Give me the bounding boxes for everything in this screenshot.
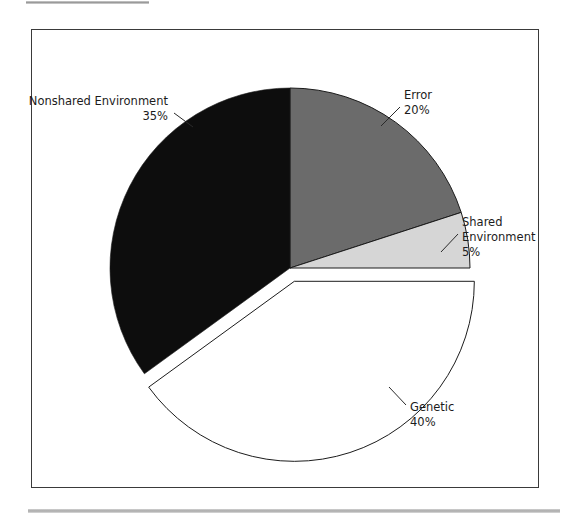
slice-label-error: Error20% bbox=[404, 88, 432, 117]
slice-label-line: 20% bbox=[404, 103, 430, 117]
slice-label-shared-environment: SharedEnvironment5% bbox=[462, 215, 536, 259]
bottom-rule-decoration bbox=[28, 509, 560, 513]
figure-page: Error20%SharedEnvironment5%Genetic40%Non… bbox=[0, 0, 567, 516]
slice-label-line: 40% bbox=[410, 415, 436, 429]
slice-label-line: Environment bbox=[462, 230, 536, 244]
slice-label-line: Shared bbox=[462, 215, 503, 229]
slice-label-nonshared-environment: Nonshared Environment35% bbox=[29, 94, 169, 123]
slice-label-line: Nonshared Environment bbox=[29, 94, 169, 108]
slice-label-line: 5% bbox=[462, 245, 480, 259]
pie-chart: Error20%SharedEnvironment5%Genetic40%Non… bbox=[0, 0, 567, 516]
slice-label-line: Error bbox=[404, 88, 432, 102]
slice-label-line: Genetic bbox=[410, 400, 454, 414]
slice-label-genetic: Genetic40% bbox=[410, 400, 454, 429]
slice-label-line: 35% bbox=[142, 109, 168, 123]
